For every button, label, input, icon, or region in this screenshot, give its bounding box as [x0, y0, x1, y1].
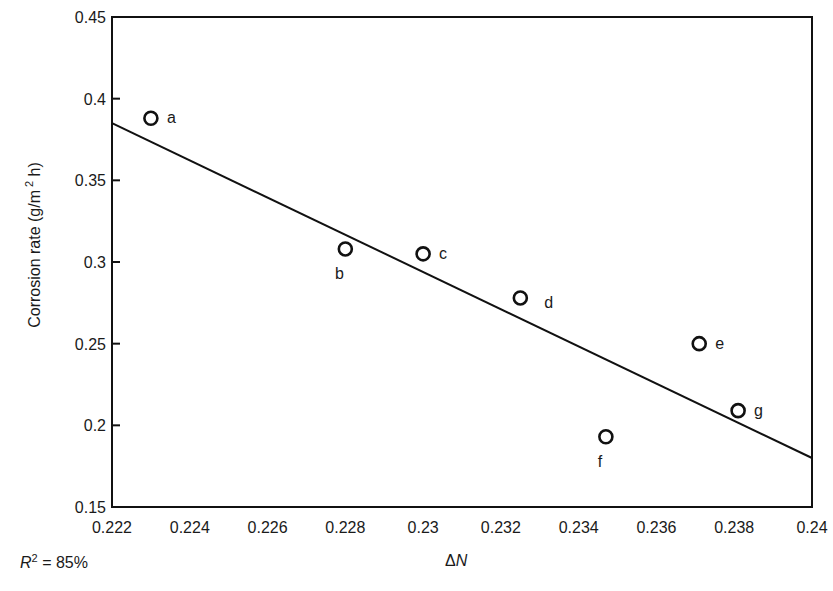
y-tick-label: 0.25 — [75, 336, 106, 353]
data-points: abcdefg — [144, 109, 763, 470]
point-label-g: g — [754, 402, 763, 419]
point-label-d: d — [544, 294, 553, 311]
x-tick-label: 0.24 — [796, 519, 827, 536]
scatter-chart: 0.150.20.250.30.350.40.45 0.2220.2240.22… — [0, 0, 833, 591]
x-label-delta: Δ — [445, 552, 456, 569]
x-axis-label: ΔN — [445, 552, 467, 570]
x-label-variable: N — [456, 552, 468, 569]
x-tick-label: 0.224 — [170, 519, 210, 536]
y-axis-label: Corrosion rate (g/m2 h) — [23, 162, 43, 328]
y-tick-label: 0.2 — [84, 417, 106, 434]
regression-line — [112, 123, 812, 458]
x-tick-label: 0.236 — [636, 519, 676, 536]
x-tick-label: 0.23 — [408, 519, 439, 536]
data-point-b — [339, 242, 352, 255]
x-tick-label: 0.238 — [714, 519, 754, 536]
x-tick-label: 0.232 — [481, 519, 521, 536]
x-tick-label: 0.228 — [325, 519, 365, 536]
point-label-a: a — [167, 109, 176, 126]
data-point-a — [144, 112, 157, 125]
data-point-f — [599, 430, 612, 443]
x-tick-label: 0.234 — [559, 519, 599, 536]
x-tick-label: 0.226 — [248, 519, 288, 536]
y-tick-label: 0.3 — [84, 254, 106, 271]
y-tick-label: 0.35 — [75, 172, 106, 189]
data-point-d — [514, 291, 527, 304]
data-point-c — [417, 247, 430, 260]
y-axis-ticks: 0.150.20.250.30.350.40.45 — [75, 9, 120, 516]
r-symbol: R — [20, 554, 32, 571]
y-tick-label: 0.15 — [75, 499, 106, 516]
point-label-b: b — [335, 265, 344, 282]
r-squared-annotation: R2 = 85% — [20, 552, 88, 572]
x-axis-ticks: 0.2220.2240.2260.2280.230.2320.2340.2360… — [92, 519, 828, 536]
x-tick-label: 0.222 — [92, 519, 132, 536]
point-label-e: e — [715, 335, 724, 352]
plot-frame — [112, 17, 812, 507]
r-value: = 85% — [38, 554, 88, 571]
data-point-g — [732, 404, 745, 417]
point-label-c: c — [439, 245, 447, 262]
y-tick-label: 0.4 — [84, 91, 106, 108]
y-tick-label: 0.45 — [75, 9, 106, 26]
data-point-e — [693, 337, 706, 350]
point-label-f: f — [598, 453, 603, 470]
